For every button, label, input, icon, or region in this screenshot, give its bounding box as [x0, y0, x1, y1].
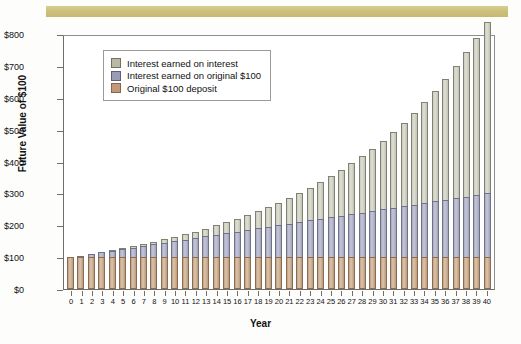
x-axis-tick-mark [248, 291, 249, 296]
x-axis-tick-mark [71, 291, 72, 296]
y-axis-tick-label: $500 [0, 126, 24, 136]
x-axis-tick-mark [362, 291, 363, 296]
x-axis-tick-label: 34 [420, 297, 428, 306]
segment-original-deposit [171, 257, 178, 289]
bar-year-35 [432, 91, 439, 289]
x-axis-tick-mark [414, 291, 415, 296]
segment-original-deposit [192, 257, 199, 289]
x-axis-tick-label: 40 [483, 297, 491, 306]
y-axis-tick-mark [57, 99, 63, 100]
legend-swatch-icon [111, 71, 121, 81]
x-axis-tick-mark [300, 291, 301, 296]
segment-original-deposit [401, 257, 408, 289]
segment-interest-on-interest [317, 182, 324, 219]
y-axis-tick-mark [57, 131, 63, 132]
legend-label: Interest earned on interest [127, 58, 238, 69]
bar-year-30 [380, 141, 387, 290]
x-axis-tick-label: 15 [223, 297, 231, 306]
y-axis-tick-label: $0 [0, 285, 24, 295]
segment-interest-on-interest [255, 211, 262, 228]
x-axis-tick-label: 12 [192, 297, 200, 306]
y-axis-tick-label: $600 [0, 94, 24, 104]
segment-interest-on-original [338, 216, 345, 257]
segment-original-deposit [244, 257, 251, 289]
segment-interest-on-interest [244, 215, 251, 230]
segment-interest-on-interest [223, 222, 230, 233]
x-axis-tick-mark [404, 291, 405, 296]
segment-interest-on-original [317, 219, 324, 257]
y-axis-tick-mark [57, 67, 63, 68]
segment-interest-on-original [275, 225, 282, 257]
segment-original-deposit [307, 257, 314, 289]
bar-year-22 [296, 193, 303, 289]
bar-year-4 [109, 250, 116, 289]
segment-interest-on-original [296, 222, 303, 257]
segment-interest-on-interest [202, 229, 209, 237]
bar-year-13 [202, 229, 209, 289]
x-axis-tick-mark [435, 291, 436, 296]
segment-interest-on-interest [286, 198, 293, 224]
segment-original-deposit [473, 257, 480, 289]
segment-interest-on-original [442, 200, 449, 257]
x-axis-tick-mark [258, 291, 259, 296]
bar-year-12 [192, 232, 199, 290]
segment-interest-on-original [286, 224, 293, 257]
chart-legend: Interest earned on interestInterest earn… [103, 50, 271, 101]
x-axis-tick-mark [144, 291, 145, 296]
x-axis-tick-label: 22 [296, 297, 304, 306]
x-axis-tick-label: 28 [358, 297, 366, 306]
segment-interest-on-interest [359, 156, 366, 212]
y-axis-title: Future Value of $100 [17, 14, 28, 234]
x-axis-tick-mark [269, 291, 270, 296]
bar-year-40 [484, 22, 491, 289]
segment-interest-on-interest [296, 193, 303, 222]
y-axis-tick-label: $300 [0, 189, 24, 199]
bar-year-21 [286, 198, 293, 289]
bar-year-34 [421, 102, 428, 289]
x-axis-tick-mark [154, 291, 155, 296]
segment-original-deposit [359, 257, 366, 289]
segment-original-deposit [223, 257, 230, 289]
segment-interest-on-interest [328, 176, 335, 217]
x-axis-tick-mark [310, 291, 311, 296]
segment-interest-on-original [484, 193, 491, 257]
y-axis-tick-label: $200 [0, 221, 24, 231]
segment-interest-on-interest [473, 38, 480, 195]
bar-year-3 [98, 252, 105, 289]
x-axis-tick-mark [456, 291, 457, 296]
x-axis-tick-mark [165, 291, 166, 296]
bar-year-9 [161, 239, 168, 289]
segment-interest-on-original [213, 235, 220, 257]
x-axis-tick-label: 10 [171, 297, 179, 306]
segment-original-deposit [442, 257, 449, 289]
segment-original-deposit [182, 257, 189, 289]
y-axis-tick-mark [57, 258, 63, 259]
segment-interest-on-interest [265, 207, 272, 227]
x-axis-tick-mark [175, 291, 176, 296]
legend-item: Interest earned on interest [111, 58, 261, 69]
x-axis-tick-mark [123, 291, 124, 296]
segment-interest-on-original [453, 198, 460, 257]
segment-interest-on-original [202, 236, 209, 257]
y-axis-tick-mark [57, 290, 63, 291]
y-axis-tick-mark [57, 35, 63, 36]
y-axis-tick-mark [57, 226, 63, 227]
y-axis-tick-mark [57, 163, 63, 164]
x-axis-tick-label: 33 [410, 297, 418, 306]
top-decorative-band [46, 6, 508, 17]
segment-interest-on-original [401, 206, 408, 257]
x-axis-tick-label: 14 [212, 297, 220, 306]
segment-original-deposit [265, 257, 272, 289]
x-axis-tick-label: 39 [472, 297, 480, 306]
legend-item: Interest earned on original $100 [111, 70, 261, 81]
x-axis-tick-mark [227, 291, 228, 296]
x-axis-tick-label: 21 [285, 297, 293, 306]
x-axis-tick-label: 3 [100, 297, 104, 306]
x-axis-tick-label: 32 [400, 297, 408, 306]
segment-interest-on-original [140, 246, 147, 257]
segment-original-deposit [213, 257, 220, 289]
segment-interest-on-original [234, 232, 241, 258]
segment-interest-on-interest [369, 149, 376, 211]
x-axis-tick-mark [424, 291, 425, 296]
segment-interest-on-original [328, 217, 335, 257]
